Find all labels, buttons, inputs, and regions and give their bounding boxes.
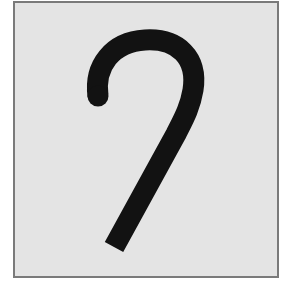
cane-hook-icon [0,0,293,287]
cane-stroke [97,40,193,247]
cane-hook-tip [88,86,109,107]
